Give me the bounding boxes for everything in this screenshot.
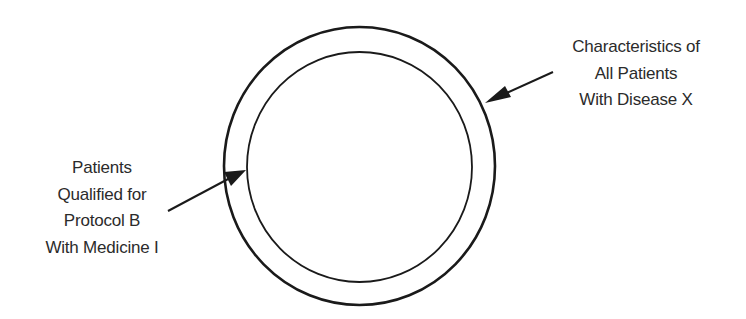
outer-circle-all-patients [224,27,495,305]
arrow-to-outer-circle [485,72,553,103]
label-line: Qualified for [12,182,192,209]
inner-circle-qualified-patients [247,52,472,282]
label-line: With Medicine I [12,235,192,262]
label-qualified-patients: Patients Qualified for Protocol B With M… [12,155,192,261]
label-all-patients-with-disease: Characteristics of All Patients With Dis… [546,34,726,114]
label-line: Characteristics of [546,34,726,61]
label-line: Patients [12,155,192,182]
label-line: All Patients [546,61,726,88]
label-line: Protocol B [12,208,192,235]
label-line: With Disease X [546,87,726,114]
